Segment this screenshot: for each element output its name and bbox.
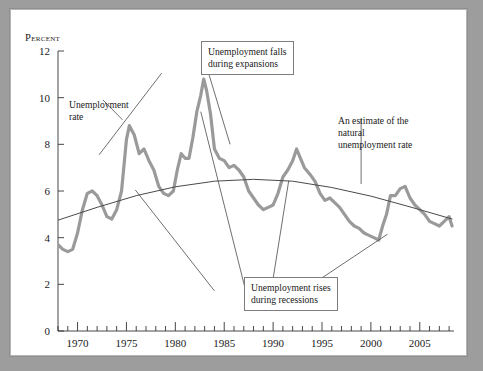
svg-text:1990: 1990 xyxy=(262,337,285,349)
svg-text:2005: 2005 xyxy=(409,337,432,349)
svg-text:1970: 1970 xyxy=(67,337,90,349)
annotation-falls-during-expansions: Unemployment falls during expansions xyxy=(201,41,294,75)
svg-text:1980: 1980 xyxy=(164,337,187,349)
y-axis-title: Percent xyxy=(25,32,60,44)
svg-text:4: 4 xyxy=(45,232,51,244)
svg-text:6: 6 xyxy=(45,185,51,197)
x-tick-labels: 19701975198019851990199520002005 xyxy=(67,337,432,349)
svg-text:2: 2 xyxy=(45,278,51,290)
svg-text:10: 10 xyxy=(39,92,51,104)
svg-text:1975: 1975 xyxy=(115,337,138,349)
svg-text:8: 8 xyxy=(45,138,51,150)
svg-text:12: 12 xyxy=(39,45,50,57)
svg-text:0: 0 xyxy=(45,325,51,337)
annotation-unemployment-rate: Unemployment rate xyxy=(69,99,129,123)
svg-text:1985: 1985 xyxy=(213,337,236,349)
svg-text:1995: 1995 xyxy=(311,337,334,349)
y-tick-labels: 024681012 xyxy=(39,45,51,337)
annotation-leader-lines xyxy=(99,73,387,291)
svg-text:2000: 2000 xyxy=(360,337,383,349)
annotation-natural-rate: An estimate of the natural unemployment … xyxy=(338,115,412,151)
figure-frame: 024681012 197019751980198519901995200020… xyxy=(10,9,467,356)
annotation-rises-during-recessions: Unemployment rises during recessions xyxy=(244,277,338,311)
